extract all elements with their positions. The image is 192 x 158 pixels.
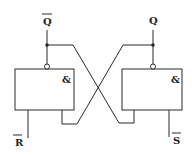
- left-inversion-bubble: [45, 64, 50, 69]
- svg-text:Q: Q: [43, 16, 52, 27]
- svg-text:R: R: [15, 137, 24, 148]
- s-bar-label: S: [172, 133, 181, 146]
- left-gate-symbol: &: [62, 74, 71, 85]
- q-label: Q: [149, 15, 158, 26]
- r-bar-label: R: [13, 135, 24, 148]
- right-gate-symbol: &: [171, 74, 180, 85]
- q-bar-label: Q: [42, 14, 52, 27]
- right-inversion-bubble: [151, 64, 156, 69]
- rs-flip-flop-diagram: & & Q Q R S: [0, 0, 192, 158]
- svg-text:Q: Q: [149, 15, 158, 26]
- svg-text:S: S: [173, 135, 180, 146]
